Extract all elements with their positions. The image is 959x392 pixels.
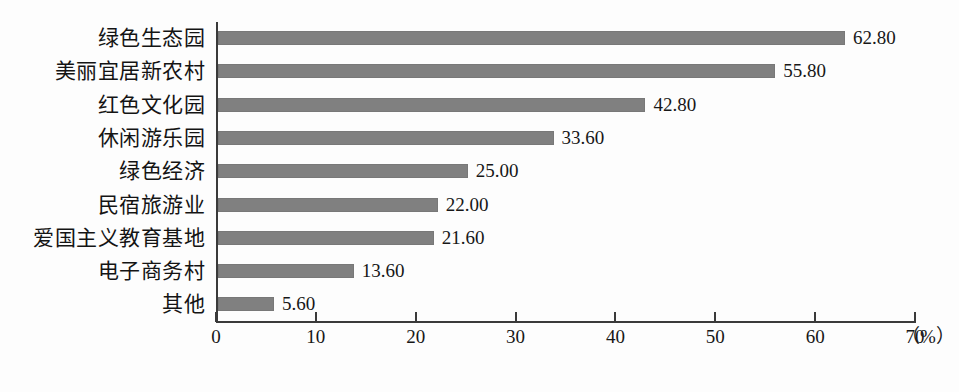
bar [218, 98, 645, 112]
bar [218, 198, 438, 212]
bar-row: 电子商务村13.60 [0, 255, 959, 287]
category-label: 民宿旅游业 [98, 193, 206, 217]
x-axis-line [216, 321, 916, 323]
bar-row: 红色文化园42.80 [0, 89, 959, 121]
category-label: 绿色经济 [119, 159, 205, 183]
x-axis-tick-label: 40 [606, 326, 625, 348]
category-label: 休闲游乐园 [98, 126, 206, 150]
bar-row: 民宿旅游业22.00 [0, 189, 959, 221]
category-label: 绿色生态园 [98, 26, 206, 50]
category-label: 红色文化园 [98, 93, 206, 117]
bar-value-label: 25.00 [476, 160, 519, 182]
x-axis-unit-label: （%） [901, 326, 955, 348]
bar-value-label: 22.00 [446, 194, 489, 216]
bar [218, 164, 468, 178]
bar [218, 231, 434, 245]
bar-row: 美丽宜居新农村55.80 [0, 55, 959, 87]
bar-value-label: 5.60 [282, 293, 315, 315]
horizontal-bar-chart: 010203040506070 （%） 绿色生态园62.80美丽宜居新农村55.… [0, 0, 959, 392]
bar-value-label: 13.60 [362, 260, 405, 282]
bar [218, 264, 354, 278]
bar-row: 绿色经济25.00 [0, 155, 959, 187]
bar [218, 31, 845, 45]
x-axis-tick-label: 60 [806, 326, 825, 348]
bar-value-label: 42.80 [653, 94, 696, 116]
bar-row: 绿色生态园62.80 [0, 22, 959, 54]
category-label: 美丽宜居新农村 [55, 59, 206, 83]
bar [218, 131, 554, 145]
x-axis-tick-label: 0 [211, 326, 221, 348]
category-label: 爱国主义教育基地 [33, 226, 205, 250]
x-axis-tick-label: 20 [406, 326, 425, 348]
category-label: 电子商务村 [98, 259, 206, 283]
x-axis-tick-label: 10 [306, 326, 325, 348]
x-axis-tick-label: 30 [506, 326, 525, 348]
bar-value-label: 21.60 [442, 227, 485, 249]
category-label: 其他 [162, 292, 205, 316]
bar-row: 爱国主义教育基地21.60 [0, 222, 959, 254]
bar [218, 297, 274, 311]
bar-row: 其他5.60 [0, 288, 959, 320]
x-axis-tick-label: 50 [706, 326, 725, 348]
bar-value-label: 55.80 [783, 60, 826, 82]
bar [218, 64, 775, 78]
bar-value-label: 62.80 [853, 27, 896, 49]
bar-row: 休闲游乐园33.60 [0, 122, 959, 154]
bar-value-label: 33.60 [562, 127, 605, 149]
